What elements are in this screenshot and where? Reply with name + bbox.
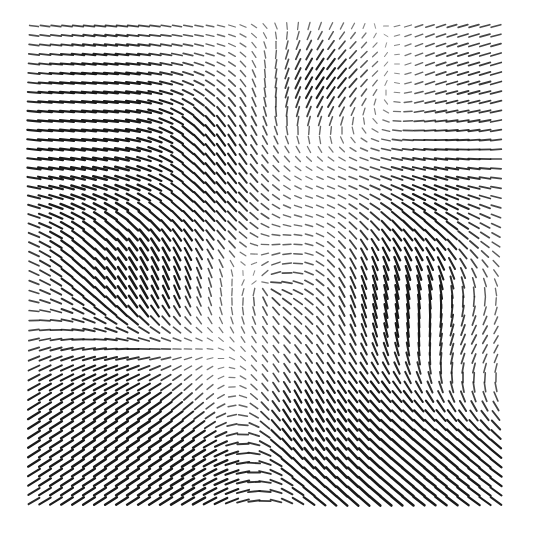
vector-field-figure [0,0,545,538]
quiver-plot [0,0,545,538]
